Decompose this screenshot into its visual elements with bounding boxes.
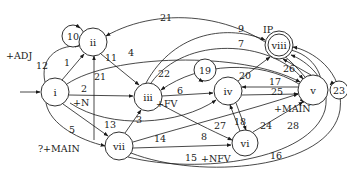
annotation-adj: +ADJ: [6, 50, 32, 61]
node-label-i: i: [53, 87, 56, 98]
node-label-vii: vii: [112, 141, 125, 152]
node-label-vi: vi: [240, 138, 250, 149]
edge-i-vii-curve: [46, 103, 105, 146]
edge-12: [44, 46, 79, 82]
edge-label: 15: [185, 152, 197, 163]
annotation-n: +N: [73, 97, 89, 108]
edge-label: 20: [239, 70, 251, 81]
edge-label: 16: [270, 150, 282, 161]
edge-label: 28: [287, 120, 299, 131]
edge-label: 21: [160, 12, 172, 23]
edge-label: 8: [201, 131, 207, 142]
edge-label: 3: [136, 114, 142, 125]
annotation-fv: +FV: [156, 98, 178, 109]
node-label-viii: viii: [270, 40, 286, 51]
edge-15: [133, 145, 231, 148]
edge-label: 26: [283, 63, 295, 74]
edge-label: 24: [260, 120, 272, 131]
edge-label: 25: [271, 86, 283, 97]
annotation-optional-main: ?+MAIN: [38, 143, 80, 154]
edge-label: 27: [214, 120, 226, 131]
edge-label: 6: [177, 85, 183, 96]
edge-label: 9: [238, 23, 244, 34]
annotation-ip: IP: [263, 24, 274, 35]
node-label-ii: ii: [90, 37, 96, 48]
edge-label: 11: [105, 52, 117, 63]
annotation-main: +MAIN: [274, 103, 311, 114]
edge-label: 2: [81, 83, 87, 94]
loop-label-10: 10: [67, 31, 79, 42]
edge-label: 13: [104, 119, 116, 130]
loop-label-23: 23: [333, 85, 345, 96]
edge-label: 4: [128, 47, 134, 58]
edge-label: 7: [238, 38, 244, 49]
edge-label: 5: [69, 124, 75, 135]
loop-label-19: 19: [199, 65, 211, 76]
edge-label: 22: [158, 68, 170, 79]
node-label-v: v: [309, 85, 316, 96]
edge-label: 21: [94, 71, 106, 82]
node-label-iv: iv: [224, 86, 233, 97]
edge-6: [162, 93, 213, 96]
node-label-iii: iii: [143, 92, 153, 103]
edge-label: 12: [36, 60, 48, 71]
edge-label: 18: [234, 116, 246, 127]
annotation-nfv: +NFV: [201, 153, 231, 164]
edge-label: 14: [154, 133, 166, 144]
state-transition-diagram: i ii iii iv v vi vii viii 10 19 23 1 2 3…: [0, 0, 347, 184]
edge-label: 1: [64, 57, 70, 68]
